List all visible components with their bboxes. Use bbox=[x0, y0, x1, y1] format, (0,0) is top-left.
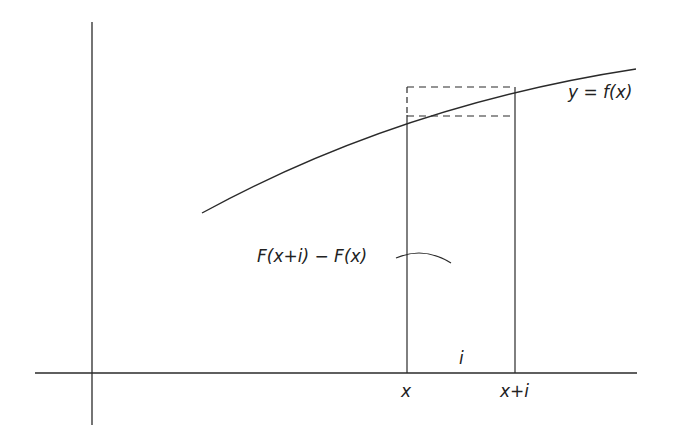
area-under-curve-diagram bbox=[0, 0, 681, 442]
area-difference-label: F(x+i) − F(x) bbox=[257, 248, 367, 265]
pointer-arc bbox=[396, 253, 451, 263]
curve-label: y = f(x) bbox=[568, 84, 632, 101]
interval-width-label: i bbox=[459, 350, 464, 367]
x-plus-i-tick-label: x+i bbox=[500, 383, 529, 400]
x-tick-label: x bbox=[401, 383, 411, 400]
